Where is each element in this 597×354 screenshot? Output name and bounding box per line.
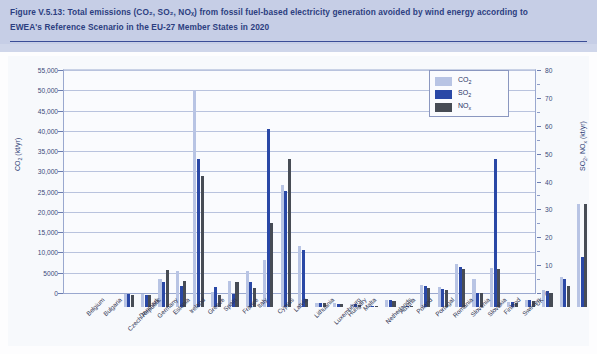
y-axis-right-tick-label: 30 bbox=[545, 206, 552, 213]
bar-group bbox=[364, 84, 381, 307]
bar-group bbox=[504, 84, 521, 307]
y-axis-left-tick-mark bbox=[58, 111, 63, 112]
figure-caption: Figure V.5.13: Total emissions (CO₂, SO₂… bbox=[10, 5, 585, 35]
figure-page: Figure V.5.13: Total emissions (CO₂, SO₂… bbox=[0, 0, 597, 354]
y-axis-left-tick-mark bbox=[58, 171, 63, 172]
bar-group bbox=[120, 84, 137, 307]
y-axis-right-tick-mark bbox=[537, 251, 540, 252]
y-axis-left-tick-label: 20,000 bbox=[38, 208, 58, 215]
y-axis-left-tick-mark bbox=[58, 90, 63, 91]
y-axis-right-tick-label: 40 bbox=[545, 178, 552, 185]
bar-group bbox=[242, 84, 259, 307]
y-axis-left-tick-label: 5000 bbox=[43, 269, 58, 276]
bar-nox bbox=[270, 223, 273, 307]
bar-group bbox=[155, 84, 172, 307]
y-axis-left-title: CO2 (kt/yr) bbox=[14, 138, 23, 171]
legend-label-nox: NOx bbox=[458, 102, 471, 111]
y-axis-left-tick-mark bbox=[58, 293, 63, 294]
y-axis-right-tick-mark bbox=[537, 154, 541, 155]
bar-group bbox=[399, 84, 416, 307]
y-axis-right-tick-mark bbox=[537, 182, 541, 183]
y-axis-left-tick-mark bbox=[58, 131, 63, 132]
bar-group bbox=[486, 84, 503, 307]
y-axis-right-tick-label: 50 bbox=[545, 150, 552, 157]
y-axis-left-tick-label: 30,000 bbox=[38, 168, 58, 175]
y-axis-left-tick-mark bbox=[58, 151, 63, 152]
bar-group bbox=[469, 84, 486, 307]
chart-area: CO2 (kt/yr) SO2, NOx (kt/yr) 0500010,000… bbox=[8, 56, 589, 346]
bar-group bbox=[574, 84, 591, 307]
bar-series-layer bbox=[120, 84, 591, 307]
y-axis-right-tick-label: 60 bbox=[545, 122, 552, 129]
legend-swatch-so2 bbox=[435, 90, 452, 99]
y-axis-left-tick-mark bbox=[58, 273, 63, 274]
y-axis-right-tick-mark bbox=[537, 293, 541, 294]
caption-band-shadow bbox=[0, 44, 597, 52]
bar-group bbox=[539, 84, 556, 307]
bar-group bbox=[347, 84, 364, 307]
bar-group bbox=[382, 84, 399, 307]
caption-rule bbox=[10, 41, 587, 42]
bar-nox bbox=[549, 293, 552, 307]
y-axis-right-tick-mark bbox=[537, 98, 541, 99]
x-axis-label: Lithuania bbox=[312, 296, 335, 319]
bar-group bbox=[417, 84, 434, 307]
y-axis-right-tick-mark bbox=[537, 237, 541, 238]
y-axis-right-tick-label: 0 bbox=[545, 290, 549, 297]
bar-group bbox=[294, 84, 311, 307]
y-axis-left-tick-label: 40,000 bbox=[38, 127, 58, 134]
bar-nox bbox=[567, 286, 570, 307]
figure-caption-line-1: Figure V.5.13: Total emissions (CO₂, SO₂… bbox=[10, 5, 585, 20]
bar-group bbox=[312, 84, 329, 307]
y-axis-right-tick-label: 70 bbox=[545, 94, 552, 101]
bar-group bbox=[172, 84, 189, 307]
bar-nox bbox=[288, 159, 291, 307]
y-axis-left-tick-label: 25,000 bbox=[38, 188, 58, 195]
bar-group bbox=[207, 84, 224, 307]
x-axis-label: Belgium bbox=[84, 296, 105, 317]
legend-label-co2: CO2 bbox=[458, 76, 471, 85]
x-axis-label: Cyprus bbox=[275, 296, 294, 315]
bar-group bbox=[260, 84, 277, 307]
y-axis-left-tick-label: 10,000 bbox=[38, 249, 58, 256]
x-axis-label: Ireland bbox=[188, 296, 207, 315]
bar-nox bbox=[584, 204, 587, 307]
legend-item-co2: CO2 bbox=[435, 75, 503, 87]
y-axis-right-tick-mark bbox=[537, 209, 541, 210]
legend-label-so2: SO2 bbox=[458, 89, 471, 98]
bar-nox bbox=[201, 176, 204, 307]
x-axis-label: Latvia bbox=[292, 296, 309, 313]
y-axis-left-tick-label: 45,000 bbox=[38, 107, 58, 114]
y-axis-right-tick-mark bbox=[537, 279, 540, 280]
x-axis-labels: BelgiumBulgariaCzech RepublicDenmarkGerm… bbox=[64, 296, 535, 354]
legend-swatch-co2 bbox=[435, 77, 452, 86]
y-axis-right-tick-mark bbox=[537, 112, 540, 113]
y-axis-right-tick-label: 80 bbox=[545, 67, 552, 74]
bar-group bbox=[329, 84, 346, 307]
legend-item-so2: SO2 bbox=[435, 88, 503, 100]
legend-item-nox: NOx bbox=[435, 101, 503, 113]
y-axis-right-tick-mark bbox=[537, 223, 540, 224]
y-axis-left-tick-mark bbox=[58, 192, 63, 193]
y-axis-left-tick-mark bbox=[58, 70, 63, 71]
y-axis-left-tick-label: 50,000 bbox=[38, 87, 58, 94]
y-axis-right-tick-mark bbox=[537, 140, 540, 141]
y-axis-right-tick-mark bbox=[537, 168, 540, 169]
y-axis-left-tick-label: 15,000 bbox=[38, 229, 58, 236]
y-axis-right-tick-mark bbox=[537, 265, 541, 266]
chart-legend: CO2 SO2 NOx bbox=[429, 70, 509, 117]
x-axis-label: Poland bbox=[415, 296, 434, 315]
y-axis-right-tick-mark bbox=[537, 84, 540, 85]
bar-group bbox=[556, 84, 573, 307]
bar-group bbox=[137, 84, 154, 307]
y-axis-left-tick-label: 55,000 bbox=[38, 67, 58, 74]
y-axis-left-tick-label: 35,000 bbox=[38, 148, 58, 155]
y-axis-left-tick-mark bbox=[58, 252, 63, 253]
y-axis-right-tick-mark bbox=[537, 70, 541, 71]
y-axis-left-tick-mark bbox=[58, 212, 63, 213]
legend-swatch-nox bbox=[435, 103, 452, 112]
y-axis-right-tick-label: 20 bbox=[545, 234, 552, 241]
bar-group bbox=[190, 84, 207, 307]
bar-group bbox=[434, 84, 451, 307]
y-axis-right-tick-mark bbox=[537, 126, 541, 127]
